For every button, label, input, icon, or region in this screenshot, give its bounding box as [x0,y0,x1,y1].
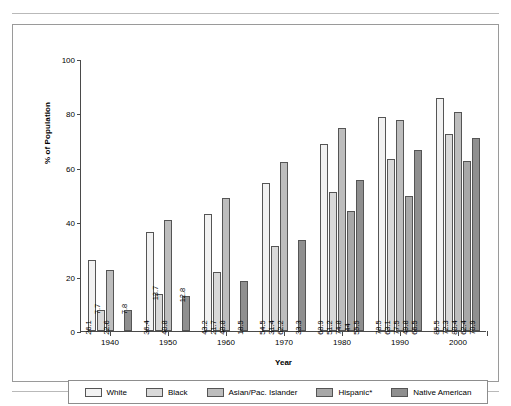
bar-group: 54.531.462.233.3 [255,60,313,331]
x-tick-mark [342,331,343,336]
plot-area: % of Population 020406080100 26.17.722.6… [80,60,486,332]
bar-value-label: 68.9 [316,320,324,335]
legend-item: Asian/Pac. Islander [207,388,298,397]
bar-group: 85.572.380.462.470.9 [429,60,487,331]
bar-value-label: 54.5 [258,320,266,335]
bar-group: 36.413.740.812.8 [139,60,197,331]
x-tick-mark [487,331,488,336]
bar: 70.9 [472,138,481,331]
x-tick-label: 1950 [159,338,177,347]
y-tick-label: 40 [45,219,81,228]
bar-value-label: 66.5 [411,320,419,335]
x-tick-mark [226,331,227,336]
bar: 40.8 [164,220,173,331]
bar: 36.4 [146,232,155,331]
x-tick-mark [400,331,401,336]
bar-value-label: 85.5 [432,320,440,335]
bar: 49.8 [405,196,414,331]
bar-value-label: 80.4 [451,320,459,335]
chart-frame: % of Population 020406080100 26.17.722.6… [12,24,499,382]
bar-value-label: 43.2 [200,320,208,335]
bar-value-label: 72.3 [441,320,449,335]
bar-value-label: 44 [344,323,352,331]
bar: 31.4 [271,246,280,331]
legend-swatch [146,388,163,397]
bar: 22.6 [106,270,115,331]
bar-value-label: 7.7 [93,304,101,314]
legend-label: Asian/Pac. Islander [229,388,298,397]
bar: 63.1 [387,159,396,331]
legend-label: Black [168,388,188,397]
bar-value-label: 70.9 [469,320,477,335]
bar: 51.2 [329,192,338,331]
x-tick-mark [110,331,111,336]
bar: 62.4 [463,161,472,331]
y-tick-label: 0 [45,328,81,337]
bar: 26.1 [88,260,97,331]
bar: 62.2 [280,162,289,331]
bar-value-label: 21.7 [209,320,217,335]
bar-value-label: 36.4 [142,320,150,335]
legend-label: Native American [413,388,471,397]
x-tick-mark [168,331,169,336]
legend-item: Hispanic* [316,388,372,397]
y-tick-label: 60 [45,164,81,173]
bar: 85.5 [436,98,445,331]
bar-value-label: 12.8 [179,288,187,303]
chart-page: % of Population 020406080100 26.17.722.6… [0,0,511,406]
bar-value-label: 48.8 [219,320,227,335]
bar-value-label: 49.8 [402,320,410,335]
x-tick-label: 1940 [101,338,119,347]
bar: 18.5 [240,281,249,331]
bar-value-label: 13.7 [151,285,159,300]
x-axis-title: Year [81,358,486,367]
bar-value-label: 62.2 [277,320,285,335]
bar-group: 78.563.177.549.866.5 [371,60,429,331]
y-tick-label: 80 [45,110,81,119]
bar: 33.3 [298,240,307,331]
bar-value-label: 55.5 [353,320,361,335]
x-tick-mark [458,331,459,336]
bar: 68.9 [320,144,329,331]
x-tick-label: 1970 [275,338,293,347]
bar: 66.5 [414,150,423,331]
x-tick-label: 1980 [333,338,351,347]
bar-value-label: 7.8 [121,304,129,314]
bar-value-label: 51.2 [325,320,333,335]
legend-swatch [391,388,408,397]
y-tick-label: 20 [45,273,81,282]
bar-group: 26.17.722.67.8 [81,60,139,331]
y-tick-label: 100 [45,56,81,65]
bar: 80.4 [454,112,463,331]
x-tick-label: 1990 [391,338,409,347]
bar-value-label: 26.1 [84,320,92,335]
bar: 55.5 [356,180,365,331]
bar: 72.3 [445,134,454,331]
bar-value-label: 18.5 [237,320,245,335]
legend-item: Native American [391,388,471,397]
bar: 48.8 [222,198,231,331]
bar: 78.5 [378,117,387,331]
bar-value-label: 63.1 [383,320,391,335]
top-divider [12,13,499,14]
legend-item: White [85,388,127,397]
bar-value-label: 31.4 [267,320,275,335]
bar-group: 43.221.748.818.5 [197,60,255,331]
bars-container: 26.17.722.67.836.413.740.812.843.221.748… [81,60,486,331]
bar: 74.8 [338,128,347,331]
x-tick-mark [284,331,285,336]
x-tick-label: 1960 [217,338,235,347]
bar: 44 [347,211,356,331]
bar-value-label: 22.6 [103,320,111,335]
legend-swatch [207,388,224,397]
legend-label: White [107,388,127,397]
bar-group: 68.951.274.84455.5 [313,60,371,331]
bar: 43.2 [204,214,213,332]
bar-value-label: 78.5 [374,320,382,335]
bar: 7.8 [124,310,133,331]
bar: 54.5 [262,183,271,331]
chart-legend: WhiteBlackAsian/Pac. IslanderHispanic*Na… [68,380,488,404]
legend-swatch [85,388,102,397]
x-tick-label: 2000 [449,338,467,347]
y-tick-mark [77,332,81,333]
